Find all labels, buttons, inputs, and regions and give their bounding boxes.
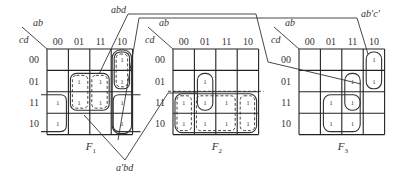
cell-one: 1: [120, 56, 124, 64]
cell-one: 1: [203, 99, 207, 107]
function-label: F1: [85, 140, 97, 155]
col-header: 10: [117, 36, 127, 47]
cell-one: 1: [372, 56, 376, 64]
cell-one: 1: [246, 99, 250, 107]
cell-one: 1: [120, 78, 124, 86]
row-header: 11: [29, 97, 39, 108]
annotation-abc-prime: ab′c′: [361, 8, 381, 19]
row-header: 11: [155, 97, 165, 108]
col-header: 00: [179, 36, 189, 47]
col-header: 11: [96, 36, 106, 47]
cell-one: 1: [182, 99, 186, 107]
function-label: F2: [211, 140, 223, 155]
annotation-leaders: abdab′c′a′bd: [84, 4, 381, 173]
annotation-abd-prime: a′bd: [116, 162, 134, 173]
cell-one: 1: [182, 120, 186, 128]
cell-one: 1: [99, 99, 103, 107]
cell-one: 1: [77, 99, 81, 107]
kmap-F2: abcd0001111000011110111111111F2: [145, 17, 264, 155]
row-variable-label: cd: [271, 34, 281, 45]
col-variable-label: ab: [285, 17, 295, 28]
kmap-F3: abcd00011110000111101111111F3: [271, 17, 385, 155]
col-header: 00: [305, 36, 315, 47]
cell-one: 1: [203, 120, 207, 128]
col-header: 11: [222, 36, 232, 47]
col-header: 01: [200, 36, 210, 47]
cell-one: 1: [246, 120, 250, 128]
function-label: F3: [337, 140, 349, 155]
row-header: 00: [155, 54, 165, 65]
cell-one: 1: [56, 99, 60, 107]
col-header: 11: [348, 36, 358, 47]
cell-one: 1: [225, 99, 229, 107]
row-header: 01: [155, 76, 165, 87]
col-header: 01: [74, 36, 84, 47]
cell-one: 1: [329, 99, 333, 107]
col-header: 01: [326, 36, 336, 47]
cell-one: 1: [77, 78, 81, 86]
cell-one: 1: [351, 120, 355, 128]
cell-one: 1: [225, 120, 229, 128]
row-header: 01: [281, 76, 291, 87]
row-header: 10: [29, 118, 39, 129]
cell-one: 1: [99, 78, 103, 86]
karnaugh-maps-diagram: abcd00011110000111101111111111F1abcd0001…: [0, 0, 400, 177]
kmap-F1: abcd00011110000111101111111111F1: [19, 17, 141, 155]
cell-one: 1: [351, 99, 355, 107]
row-header: 01: [29, 76, 39, 87]
row-header: 10: [281, 118, 291, 129]
row-header: 00: [29, 54, 39, 65]
cell-one: 1: [56, 120, 60, 128]
cell-one: 1: [203, 78, 207, 86]
row-header: 10: [155, 118, 165, 129]
col-header: 10: [369, 36, 379, 47]
annotation-abd: abd: [111, 4, 127, 15]
col-header: 00: [53, 36, 63, 47]
cell-one: 1: [372, 78, 376, 86]
row-header: 00: [281, 54, 291, 65]
cell-one: 1: [329, 120, 333, 128]
row-header: 11: [281, 97, 291, 108]
col-header: 10: [243, 36, 253, 47]
col-variable-label: ab: [159, 17, 169, 28]
row-variable-label: cd: [19, 34, 29, 45]
row-variable-label: cd: [145, 34, 155, 45]
col-variable-label: ab: [33, 17, 43, 28]
